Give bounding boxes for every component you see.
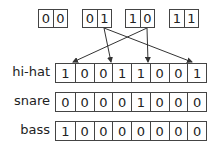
hihat-pattern-row: 1 0 0 1 1 0 0 1 [55, 63, 207, 83]
step-cell: 0 [150, 122, 169, 140]
step-cell: 0 [150, 64, 169, 82]
step-cell: 1 [131, 64, 150, 82]
row-label-hihat: hi-hat [0, 64, 50, 79]
bit-pair-11: 1 1 [169, 9, 199, 28]
step-cell: 0 [150, 93, 169, 111]
step-cell: 0 [112, 93, 131, 111]
step-cell: 0 [187, 93, 206, 111]
bit-cell: 1 [184, 10, 198, 27]
bit-cell: 1 [170, 10, 184, 27]
bit-pair-10: 1 0 [125, 9, 155, 28]
bit-cell: 0 [83, 10, 97, 27]
bit-cell: 1 [126, 10, 140, 27]
step-cell: 0 [75, 93, 94, 111]
step-cell: 1 [56, 64, 75, 82]
bit-pair-00: 0 0 [38, 9, 68, 28]
step-cell: 0 [187, 122, 206, 140]
bit-cell: 0 [39, 10, 53, 27]
step-cell: 0 [169, 122, 188, 140]
step-cell: 1 [56, 122, 75, 140]
bit-pair-01: 0 1 [82, 9, 112, 28]
row-label-snare: snare [0, 93, 50, 108]
bit-cell: 0 [53, 10, 67, 27]
step-cell: 0 [75, 122, 94, 140]
bass-pattern-row: 1 0 0 0 0 0 0 0 [55, 121, 207, 141]
step-cell: 0 [75, 64, 94, 82]
step-cell: 0 [169, 64, 188, 82]
step-cell: 0 [94, 93, 113, 111]
step-cell: 0 [94, 64, 113, 82]
step-cell: 1 [112, 64, 131, 82]
step-cell: 0 [94, 122, 113, 140]
step-cell: 0 [56, 93, 75, 111]
bit-cell: 1 [97, 10, 111, 27]
step-cell: 0 [131, 122, 150, 140]
bit-cell: 0 [140, 10, 154, 27]
step-cell: 0 [169, 93, 188, 111]
row-label-bass: bass [0, 122, 50, 137]
step-cell: 0 [112, 122, 131, 140]
step-cell: 1 [131, 93, 150, 111]
step-cell: 1 [187, 64, 206, 82]
snare-pattern-row: 0 0 0 0 1 0 0 0 [55, 92, 207, 112]
arrow-10-to-step6 [147, 28, 148, 62]
